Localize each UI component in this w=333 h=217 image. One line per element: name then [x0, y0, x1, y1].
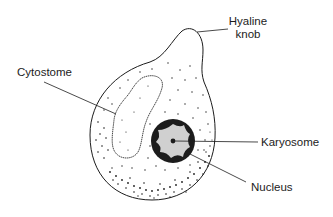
label-hyaline: Hyaline — [226, 15, 270, 28]
diagram: Hyaline knob Cytostome Karyosome Nucleus — [0, 0, 333, 217]
label-cytostome: Cytostome — [17, 66, 72, 79]
leader-lines — [44, 29, 258, 182]
label-karyosome: Karyosome — [261, 136, 319, 149]
cell-membrane — [90, 29, 215, 200]
cytoplasm-granules — [95, 62, 210, 170]
label-knob: knob — [226, 28, 270, 41]
leader-hyaline-knob — [197, 29, 228, 32]
leader-cytostome — [44, 82, 116, 114]
label-nucleus: Nucleus — [251, 181, 293, 194]
leader-nucleus — [190, 154, 246, 182]
label-hyaline-knob: Hyaline knob — [226, 15, 270, 41]
